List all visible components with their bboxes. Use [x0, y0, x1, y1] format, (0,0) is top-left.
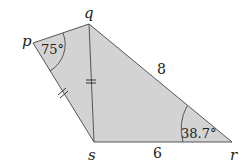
edge-length-rs: 6 — [153, 145, 162, 161]
vertex-label-q: q — [84, 4, 94, 22]
angle-label-r: 38.7° — [181, 126, 216, 141]
angle-label-p: 75° — [41, 42, 64, 57]
vertex-label-r: r — [230, 146, 238, 163]
vertex-label-s: s — [88, 146, 96, 163]
edge-length-qr: 8 — [157, 61, 166, 77]
vertex-label-p: p — [22, 32, 32, 50]
quadrilateral-diagram: p q r s 8 6 75° 38.7° — [0, 0, 250, 163]
